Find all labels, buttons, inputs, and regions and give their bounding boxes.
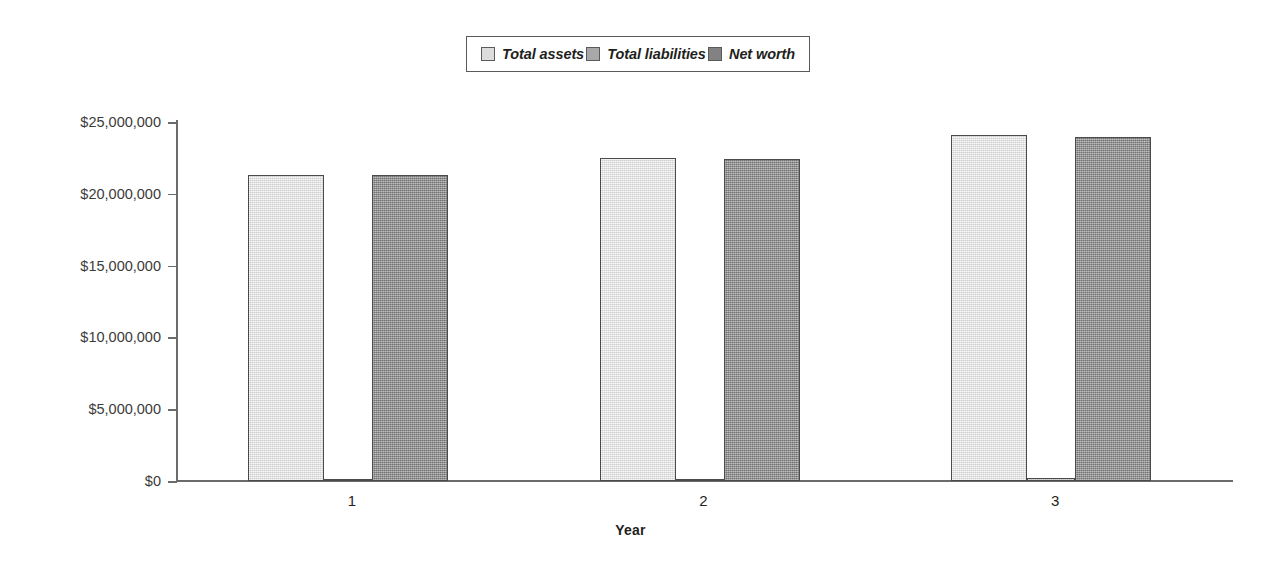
plot-area: [176, 122, 1231, 481]
y-axis-tick-label: $0: [11, 473, 161, 489]
bar-net-worth-year-2: [724, 159, 800, 481]
legend-swatch-total-assets: [481, 47, 495, 61]
bar-total-liabilities-year-2: [676, 479, 724, 481]
legend-swatch-total-liabilities: [586, 47, 600, 61]
y-axis-tick-label: $5,000,000: [11, 401, 161, 417]
x-axis-title: Year: [0, 522, 1261, 538]
x-axis-tick-label: 1: [292, 492, 412, 509]
y-axis-tick: [168, 481, 177, 483]
legend-label-net-worth: Net worth: [729, 46, 795, 62]
bar-total-assets-year-2: [600, 158, 676, 481]
bar-chart: Total assets Total liabilities Net worth…: [0, 0, 1261, 579]
bar-total-liabilities-year-1: [324, 479, 372, 481]
legend-item-total-liabilities: Total liabilities: [586, 46, 705, 62]
legend-item-net-worth: Net worth: [708, 46, 795, 62]
x-axis-tick-label: 2: [644, 492, 764, 509]
y-axis-tick-label: $10,000,000: [11, 329, 161, 345]
bar-total-assets-year-3: [951, 135, 1027, 481]
bar-net-worth-year-3: [1075, 137, 1151, 481]
legend-swatch-net-worth: [708, 47, 722, 61]
legend-label-total-liabilities: Total liabilities: [607, 46, 705, 62]
y-axis-tick-label: $15,000,000: [11, 258, 161, 274]
y-axis-tick-label: $25,000,000: [11, 114, 161, 130]
bar-total-assets-year-1: [248, 175, 324, 481]
bar-total-liabilities-year-3: [1027, 478, 1075, 481]
bar-net-worth-year-1: [372, 175, 448, 481]
x-axis-tick-label: 3: [995, 492, 1115, 509]
chart-legend: Total assets Total liabilities Net worth: [466, 36, 810, 72]
legend-item-total-assets: Total assets: [481, 46, 584, 62]
y-axis-tick-label: $20,000,000: [11, 186, 161, 202]
legend-label-total-assets: Total assets: [502, 46, 584, 62]
